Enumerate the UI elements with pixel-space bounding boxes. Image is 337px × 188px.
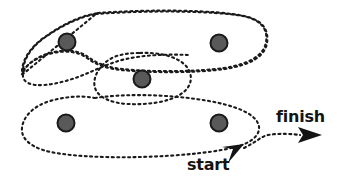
node-bottom-left bbox=[58, 115, 75, 132]
node-top-right bbox=[211, 35, 228, 52]
figure-canvas: finish start bbox=[0, 0, 337, 188]
cluster-nodes bbox=[58, 34, 228, 132]
traversal-path-line bbox=[244, 134, 300, 148]
node-middle bbox=[134, 71, 151, 88]
finish-label: finish bbox=[276, 107, 325, 126]
node-bottom-right bbox=[211, 115, 228, 132]
diagram-svg bbox=[0, 0, 337, 188]
start-label: start bbox=[187, 155, 230, 174]
node-top-left bbox=[59, 34, 76, 51]
finish-arrowhead-icon bbox=[298, 127, 322, 143]
